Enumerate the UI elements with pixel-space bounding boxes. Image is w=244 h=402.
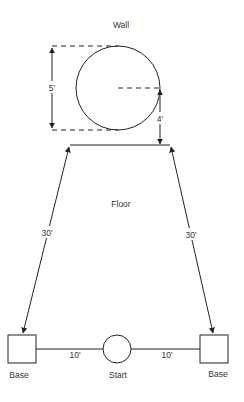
start-label: Start	[109, 370, 128, 380]
left-base-square	[8, 335, 36, 363]
left-diagonal-label: 30'	[41, 228, 52, 238]
floor-label: Floor	[111, 199, 131, 209]
field-layout-diagram: Wall 5' 4' Floor 30' 30' 10' 10' Base St…	[0, 0, 244, 402]
wall-label: Wall	[113, 20, 129, 30]
start-circle	[103, 335, 131, 363]
left-base-to-start-label: 10'	[69, 350, 80, 360]
right-base-label: Base	[208, 369, 228, 379]
left-base-label: Base	[9, 370, 29, 380]
right-base-to-start-label: 10'	[161, 350, 172, 360]
target-above-floor-label: 4'	[157, 114, 164, 124]
right-base-square	[200, 335, 228, 363]
right-diagonal-label: 30'	[185, 230, 196, 240]
target-height-label: 5'	[49, 83, 56, 93]
left-diagonal-arrow	[23, 147, 69, 333]
